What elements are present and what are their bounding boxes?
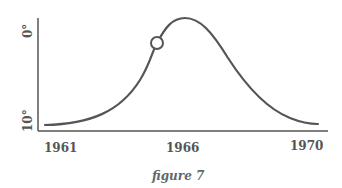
- data-curve: [45, 18, 318, 125]
- highlight-marker: [151, 37, 163, 49]
- figure-caption: figure 7: [151, 169, 205, 183]
- y-tick-0: 0°: [21, 24, 35, 38]
- chart: 0° 10° 1961 1966 1970 figure 7: [0, 0, 342, 188]
- x-tick-1966: 1966: [166, 141, 199, 155]
- x-tick-1961: 1961: [44, 141, 77, 155]
- y-tick-10: 10°: [21, 109, 35, 132]
- x-tick-1970: 1970: [290, 139, 323, 153]
